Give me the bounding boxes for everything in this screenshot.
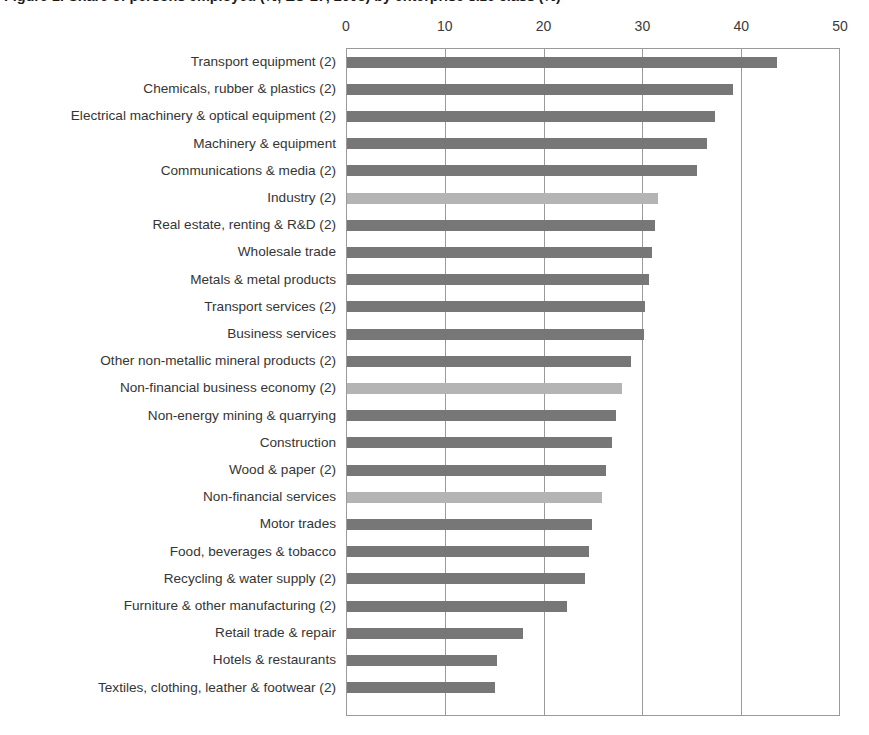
- x-tick-label-40: 40: [733, 18, 749, 34]
- bar: [347, 220, 655, 231]
- bar: [347, 601, 567, 612]
- category-label: Communications & media (2): [161, 164, 336, 178]
- category-label: Transport equipment (2): [191, 55, 336, 69]
- category-label: Construction: [260, 436, 336, 450]
- category-label: Industry (2): [267, 191, 336, 205]
- bar: [347, 546, 589, 557]
- category-label: Furniture & other manufacturing (2): [124, 599, 336, 613]
- x-tick-label-0: 0: [342, 18, 350, 34]
- bar: [347, 437, 612, 448]
- category-label: Motor trades: [260, 517, 336, 531]
- bar: [347, 465, 606, 476]
- bar: [347, 274, 649, 285]
- bar: [347, 573, 585, 584]
- category-label: Non-financial services: [203, 490, 336, 504]
- category-label: Recycling & water supply (2): [164, 572, 336, 586]
- x-tick-label-50: 50: [832, 18, 848, 34]
- bar: [347, 84, 733, 95]
- bar: [347, 628, 523, 639]
- category-label: Hotels & restaurants: [213, 653, 336, 667]
- category-label: Wood & paper (2): [229, 463, 336, 477]
- bar: [347, 138, 707, 149]
- category-label: Real estate, renting & R&D (2): [152, 218, 336, 232]
- category-label: Chemicals, rubber & plastics (2): [143, 82, 336, 96]
- category-label: Wholesale trade: [238, 245, 336, 259]
- bar: [347, 111, 715, 122]
- y-axis-category-labels: Transport equipment (2)Chemicals, rubber…: [0, 48, 340, 716]
- bar: [347, 492, 602, 503]
- bar: [347, 356, 631, 367]
- category-label: Food, beverages & tobacco: [170, 545, 336, 559]
- bar: [347, 301, 645, 312]
- category-label: Metals & metal products: [190, 273, 336, 287]
- x-tick-label-30: 30: [635, 18, 651, 34]
- bar: [347, 57, 777, 68]
- bar: [347, 247, 652, 258]
- bar: [347, 165, 697, 176]
- category-label: Other non-metallic mineral products (2): [100, 354, 336, 368]
- x-axis-tick-labels: 01020304050: [0, 18, 869, 38]
- category-label: Non-energy mining & quarrying: [148, 409, 336, 423]
- bar: [347, 655, 497, 666]
- category-label: Electrical machinery & optical equipment…: [71, 109, 336, 123]
- category-label: Non-financial business economy (2): [120, 381, 336, 395]
- category-label: Transport services (2): [204, 300, 336, 314]
- bars-layer: [347, 48, 840, 716]
- category-label: Retail trade & repair: [215, 626, 336, 640]
- bar: [347, 383, 622, 394]
- bar: [347, 519, 592, 530]
- bar: [347, 193, 658, 204]
- x-tick-label-10: 10: [437, 18, 453, 34]
- category-label: Textiles, clothing, leather & footwear (…: [98, 681, 336, 695]
- bar: [347, 410, 616, 421]
- chart-title: Figure 1: Share of persons employed (%, …: [4, 0, 864, 4]
- x-tick-label-20: 20: [536, 18, 552, 34]
- bar: [347, 329, 644, 340]
- bar-chart: Figure 1: Share of persons employed (%, …: [0, 0, 869, 735]
- bar: [347, 682, 495, 693]
- category-label: Machinery & equipment: [193, 137, 336, 151]
- category-label: Business services: [227, 327, 336, 341]
